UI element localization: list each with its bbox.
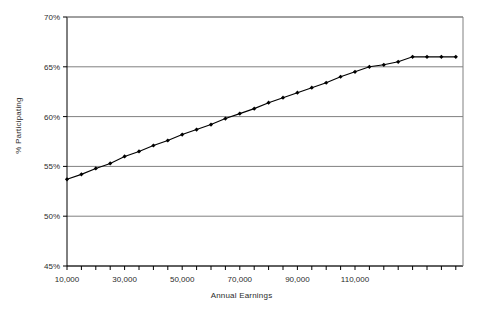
data-point-marker (123, 154, 127, 158)
x-axis-tick-label: 50,000 (170, 275, 195, 284)
data-point-marker (108, 161, 112, 165)
y-axis-tick-label: 50% (44, 212, 60, 221)
y-axis-tick-label: 70% (44, 13, 60, 22)
data-point-marker (295, 91, 299, 95)
data-point-marker (310, 86, 314, 90)
series-line (67, 57, 456, 180)
x-axis-tick-label: 30,000 (112, 275, 137, 284)
line-chart-plot: 45%50%55%60%65%70% 10,00030,00050,00070,… (0, 0, 483, 323)
x-axis-tick-group (67, 266, 456, 270)
data-point-marker (396, 60, 400, 64)
y-axis-tick-group (63, 17, 67, 266)
data-point-marker (339, 75, 343, 79)
data-series-group (65, 55, 458, 182)
data-point-marker (411, 55, 415, 59)
y-axis-tick-label: 45% (44, 262, 60, 271)
data-point-marker (151, 143, 155, 147)
data-point-marker (223, 116, 227, 120)
data-point-marker (367, 65, 371, 69)
data-point-marker (252, 107, 256, 111)
data-point-marker (238, 112, 242, 116)
data-point-marker (195, 127, 199, 131)
data-point-marker (324, 81, 328, 85)
x-axis-tick-label: 10,000 (55, 275, 80, 284)
x-axis-tick-labels: 10,00030,00050,00070,00090,000110,000 (55, 275, 370, 284)
data-point-marker (267, 101, 271, 105)
x-axis-tick-label: 110,000 (341, 275, 370, 284)
y-axis-tick-labels: 45%50%55%60%65%70% (44, 13, 60, 271)
data-point-marker (281, 96, 285, 100)
data-point-marker (94, 166, 98, 170)
gridline-group (67, 17, 463, 266)
data-point-marker (353, 70, 357, 74)
x-axis-title: Annual Earnings (0, 291, 483, 300)
y-axis-title: % Participating (14, 78, 23, 174)
data-point-marker (454, 55, 458, 59)
y-axis-tick-label: 55% (44, 162, 60, 171)
y-axis-tick-label: 65% (44, 63, 60, 72)
data-point-marker (382, 63, 386, 67)
x-axis-tick-label: 90,000 (285, 275, 310, 284)
data-point-marker (137, 149, 141, 153)
data-point-marker (180, 132, 184, 136)
data-point-marker (209, 122, 213, 126)
x-axis-tick-label: 70,000 (228, 275, 253, 284)
y-axis-tick-label: 60% (44, 113, 60, 122)
data-point-marker (166, 138, 170, 142)
data-point-marker (439, 55, 443, 59)
chart-container: 45%50%55%60%65%70% 10,00030,00050,00070,… (0, 0, 483, 323)
data-point-marker (79, 172, 83, 176)
data-point-marker (65, 177, 69, 181)
data-point-marker (425, 55, 429, 59)
plot-frame (67, 17, 463, 266)
